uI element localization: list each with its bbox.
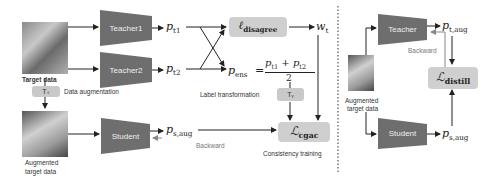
l-cgac-box: ℒcgac — [278, 122, 330, 142]
right-student-label: Student — [378, 118, 427, 149]
p-s-aug: ps,aug — [166, 123, 192, 138]
augmented-target-image — [22, 111, 68, 157]
ts-transform-box: Tₛ — [32, 86, 60, 97]
target-data-image — [22, 22, 68, 74]
right-teacher-label: Teacher — [378, 14, 427, 45]
ts-label: Tₛ — [42, 88, 49, 96]
label-transformation-label: Label transformation — [200, 91, 259, 98]
l-distill-box: ℒdistill — [428, 67, 478, 89]
right-augmented-label-1: Augmented — [345, 97, 378, 104]
p-t-aug: pt,aug — [442, 19, 468, 34]
equals-sign: = — [255, 64, 264, 77]
teacher2-label: Teacher2 — [100, 52, 152, 88]
ty-label: Tᵧ — [287, 91, 294, 98]
teacher1-label: Teacher1 — [100, 10, 152, 46]
right-p-s-aug: ps,aug — [442, 127, 468, 142]
backward-label: Backward — [196, 142, 225, 149]
data-augmentation-label: Data augmentation — [64, 88, 119, 95]
p-t1: pt1 — [166, 20, 180, 35]
right-backward-label: Backward — [408, 47, 437, 54]
fraction-numerator: pt1 + pt2 — [265, 57, 306, 71]
p-t2: pt2 — [166, 62, 180, 77]
augmented-label-1: Augmented — [25, 159, 58, 166]
target-data-label: Target data — [22, 76, 57, 83]
student-label: Student — [101, 118, 150, 154]
ty-transform-box: Tᵧ — [277, 88, 304, 101]
right-augmented-label-2: target data — [347, 105, 378, 112]
augmented-label-2: target data — [25, 168, 56, 175]
right-augmented-target-image — [348, 55, 374, 91]
l-disagree-box: ℓdisagree — [229, 17, 287, 37]
w-t: wt — [316, 20, 328, 35]
consistency-training-label: Consistency training — [263, 150, 322, 157]
p-ens: pens — [228, 64, 248, 79]
fraction-denominator: 2 — [286, 73, 292, 83]
